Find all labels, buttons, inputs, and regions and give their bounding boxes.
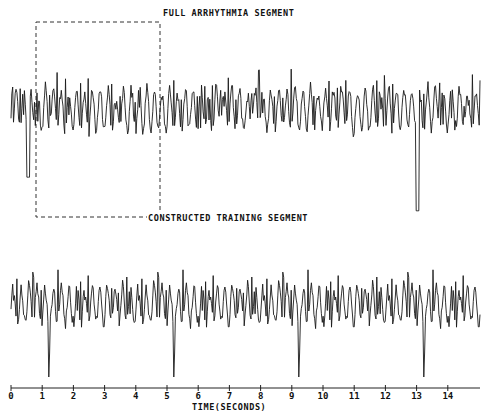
x-axis-label: TIME(SECONDS) <box>192 402 266 412</box>
ecg-chart <box>0 0 492 417</box>
x-tick-label: 11 <box>349 391 360 401</box>
x-tick-label: 7 <box>227 391 232 401</box>
x-tick-label: 8 <box>258 391 263 401</box>
x-tick-label: 0 <box>8 391 13 401</box>
x-tick-label: 13 <box>411 391 422 401</box>
x-tick-label: 4 <box>133 391 138 401</box>
x-tick-label: 10 <box>318 391 329 401</box>
x-tick-label: 3 <box>102 391 107 401</box>
x-tick-label: 1 <box>39 391 44 401</box>
x-tick-label: 12 <box>380 391 391 401</box>
bottom-panel-label: CONSTRUCTED TRAINING SEGMENT <box>147 213 308 223</box>
arrhythmia-trace <box>11 69 480 211</box>
top-panel-label: FULL ARRHYTHMIA SEGMENT <box>163 8 295 18</box>
x-tick-label: 9 <box>289 391 294 401</box>
x-tick-label: 14 <box>442 391 453 401</box>
x-tick-label: 6 <box>195 391 200 401</box>
x-tick-label: 2 <box>71 391 76 401</box>
training-trace <box>11 270 480 377</box>
x-tick-label: 5 <box>164 391 169 401</box>
